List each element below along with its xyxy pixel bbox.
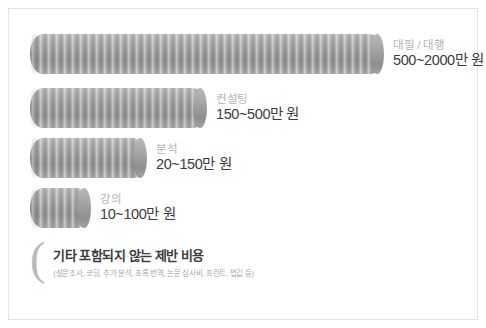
slide-canvas: 대필 / 대행 500~2000만 원 컨설팅 150~500만 원 분석 20… (0, 0, 486, 328)
pricing-bar-chart: 대필 / 대행 500~2000만 원 컨설팅 150~500만 원 분석 20… (0, 0, 486, 328)
label-group-2: 컨설팅 150~500만 원 (216, 93, 299, 122)
bar-category-label-3: 분석 (156, 143, 231, 155)
label-group-1: 대필 / 대행 500~2000만 원 (393, 39, 484, 68)
bar-lecture (30, 188, 90, 228)
bar-analysis (30, 138, 146, 178)
chart-row-1: 대필 / 대행 500~2000만 원 (30, 34, 484, 74)
bar-price-label-3: 20~150만 원 (156, 157, 231, 172)
bar-category-label-4: 강의 (100, 193, 175, 205)
chart-row-3: 분석 20~150만 원 (30, 138, 231, 178)
bar-price-label-4: 10~100만 원 (100, 207, 175, 222)
bar-daepil-daehaeng (30, 34, 383, 74)
bar-price-label-1: 500~2000만 원 (393, 53, 484, 68)
footnote-row: ( 기타 포함되지 않는 제반 비용 (설문조사, 코딩, 추가 분석, 초록 … (30, 240, 254, 282)
chart-row-4: 강의 10~100만 원 (30, 188, 175, 228)
bar-price-label-2: 150~500만 원 (216, 107, 299, 122)
bar-consulting (30, 88, 206, 128)
label-group-4: 강의 10~100만 원 (100, 193, 175, 222)
footnote-title: 기타 포함되지 않는 제반 비용 (53, 245, 253, 264)
chart-row-2: 컨설팅 150~500만 원 (30, 88, 299, 128)
bar-category-label-2: 컨설팅 (216, 93, 299, 105)
footnote-subtitle: (설문조사, 코딩, 추가 분석, 초록 번역, 논문 심사비, 프린트, 법깂… (53, 267, 253, 278)
open-paren-icon: ( (30, 236, 45, 282)
label-group-3: 분석 20~150만 원 (156, 143, 231, 172)
bar-category-label-1: 대필 / 대행 (393, 39, 484, 51)
footnote-text-group: 기타 포함되지 않는 제반 비용 (설문조사, 코딩, 추가 분석, 초록 번역… (53, 245, 253, 278)
